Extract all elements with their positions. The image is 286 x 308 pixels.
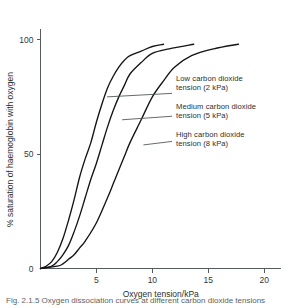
leader-line-high-co2 — [143, 141, 172, 145]
y-tick-label-50: 50 — [24, 149, 34, 159]
x-tick-label-5: 5 — [94, 275, 99, 285]
x-axis-tick-labels: 5101520 — [94, 275, 269, 285]
leader-line-medium-co2 — [122, 116, 172, 120]
annotation-medium-co2: Medium carbon dioxide tension (5 kPa) — [176, 102, 256, 120]
y-axis-title: % saturation of haemoglobin with oxygen — [5, 72, 15, 227]
annotation-high-co2: High carbon dioxide tension (8 kPa) — [176, 130, 245, 148]
annotation-low-co2-line1: Low carbon dioxide — [176, 74, 243, 83]
y-axis-ticks — [37, 40, 41, 154]
x-tick-label-10: 10 — [148, 275, 158, 285]
annotation-low-co2: Low carbon dioxide tension (2 kPa) — [176, 74, 243, 92]
leader-line-low-co2 — [107, 93, 172, 97]
annotation-low-co2-line2: tension (2 kPa) — [176, 83, 243, 92]
y-tick-label-100: 100 — [19, 35, 33, 45]
annotation-medium-co2-line1: Medium carbon dioxide — [176, 102, 256, 111]
annotation-high-co2-line1: High carbon dioxide — [176, 130, 245, 139]
y-tick-label-0: 0 — [29, 264, 34, 274]
oxygen-dissociation-chart-figure: 5101520 050100 Oxygen tension/kPa % satu… — [0, 0, 286, 308]
x-axis-ticks — [96, 269, 264, 273]
annotation-medium-co2-line2: tension (5 kPa) — [176, 111, 256, 120]
chart-plot-area: 5101520 050100 Oxygen tension/kPa % satu… — [0, 0, 286, 308]
curve-low-co2-tension — [41, 44, 164, 268]
x-tick-label-15: 15 — [204, 275, 214, 285]
x-tick-label-20: 20 — [259, 275, 269, 285]
y-axis-tick-labels: 050100 — [19, 35, 33, 274]
annotation-high-co2-line2: tension (8 kPa) — [176, 139, 245, 148]
figure-caption: Fig. 2.1.5 Oxygen dissociation curves at… — [6, 296, 286, 306]
